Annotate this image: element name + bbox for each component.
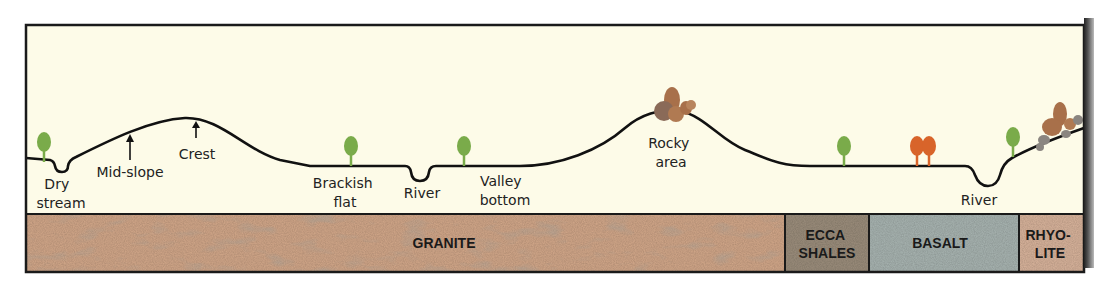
landscape-cross-section-diagram: Dry stream Mid-slope Crest Brackish flat… [0,0,1094,300]
label-mid-slope: Mid-slope [96,164,163,180]
sky-panel [26,25,1084,214]
page-edge-shadow [1084,18,1094,268]
label-crest: Crest [179,146,216,162]
rock-label-granite: GRANITE [413,235,476,251]
rock-layer-rhyolite [1019,214,1084,272]
label-river: River [404,185,441,201]
rock-label-basalt: BASALT [912,235,968,251]
rock-layer-ecca-shales [785,214,869,272]
label-river: River [961,192,998,208]
